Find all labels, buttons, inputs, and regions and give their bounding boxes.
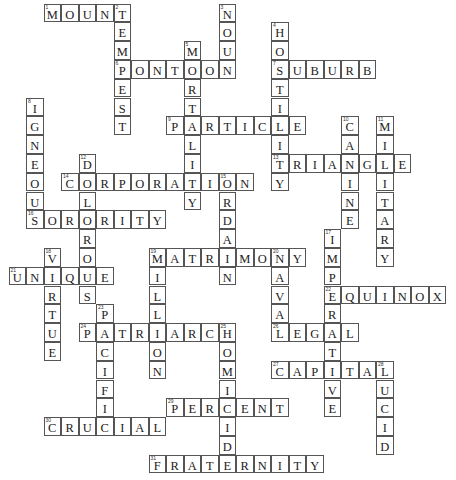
crossword-cell[interactable]: L xyxy=(271,116,289,135)
crossword-cell[interactable]: R xyxy=(201,248,219,267)
crossword-cell[interactable]: E xyxy=(394,154,412,173)
crossword-cell[interactable]: C xyxy=(96,342,114,361)
crossword-cell[interactable]: L xyxy=(149,286,167,305)
crossword-cell[interactable]: N xyxy=(26,267,44,286)
crossword-cell[interactable]: M xyxy=(219,361,237,380)
crossword-cell[interactable]: 17I xyxy=(324,229,342,248)
crossword-cell[interactable]: 15O xyxy=(219,173,237,192)
crossword-cell[interactable]: R xyxy=(149,173,167,192)
crossword-cell[interactable]: T xyxy=(166,60,184,79)
crossword-cell[interactable]: O xyxy=(61,4,79,23)
crossword-cell[interactable]: I xyxy=(271,98,289,117)
crossword-cell[interactable]: A xyxy=(289,361,307,380)
crossword-cell[interactable]: E xyxy=(114,22,132,41)
crossword-cell[interactable]: A xyxy=(184,455,202,474)
crossword-cell[interactable]: N xyxy=(26,135,44,154)
crossword-cell[interactable]: R xyxy=(44,286,62,305)
crossword-cell[interactable]: A xyxy=(219,229,237,248)
crossword-cell[interactable]: O xyxy=(131,173,149,192)
crossword-cell[interactable]: L xyxy=(376,154,394,173)
crossword-cell[interactable]: L xyxy=(341,323,359,342)
crossword-cell[interactable]: R xyxy=(131,323,149,342)
crossword-cell[interactable]: 10C xyxy=(341,116,359,135)
crossword-cell[interactable]: I xyxy=(219,417,237,436)
crossword-cell[interactable]: 30C xyxy=(44,417,62,436)
crossword-cell[interactable]: R xyxy=(184,79,202,98)
crossword-cell[interactable]: T xyxy=(44,304,62,323)
crossword-cell[interactable]: B xyxy=(306,60,324,79)
crossword-cell[interactable]: C xyxy=(96,417,114,436)
crossword-cell[interactable]: E xyxy=(289,323,307,342)
crossword-cell[interactable]: E xyxy=(219,455,237,474)
crossword-cell[interactable]: N xyxy=(341,154,359,173)
crossword-cell[interactable]: U xyxy=(79,267,97,286)
crossword-cell[interactable]: U xyxy=(26,192,44,211)
crossword-cell[interactable]: 4H xyxy=(271,22,289,41)
crossword-cell[interactable]: R xyxy=(236,455,254,474)
crossword-cell[interactable]: U xyxy=(324,60,342,79)
crossword-cell[interactable]: 7S xyxy=(271,60,289,79)
crossword-cell[interactable]: I xyxy=(271,135,289,154)
crossword-cell[interactable]: I xyxy=(236,116,254,135)
crossword-cell[interactable]: T xyxy=(271,79,289,98)
crossword-cell[interactable]: L xyxy=(184,135,202,154)
crossword-cell[interactable]: 25H xyxy=(219,323,237,342)
crossword-cell[interactable]: E xyxy=(96,267,114,286)
crossword-cell[interactable]: U xyxy=(219,41,237,60)
crossword-cell[interactable]: R xyxy=(166,455,184,474)
crossword-cell[interactable]: N xyxy=(219,267,237,286)
crossword-cell[interactable]: Y xyxy=(271,173,289,192)
crossword-cell[interactable]: X xyxy=(429,286,447,305)
crossword-cell[interactable]: E xyxy=(341,210,359,229)
crossword-cell[interactable]: U xyxy=(359,286,377,305)
crossword-cell[interactable]: E xyxy=(184,398,202,417)
crossword-cell[interactable]: 23P xyxy=(96,304,114,323)
crossword-cell[interactable]: C xyxy=(376,398,394,417)
crossword-cell[interactable]: I xyxy=(96,361,114,380)
crossword-cell[interactable]: A xyxy=(166,323,184,342)
crossword-cell[interactable]: I xyxy=(341,173,359,192)
crossword-cell[interactable]: R xyxy=(96,173,114,192)
crossword-cell[interactable]: T xyxy=(114,116,132,135)
crossword-cell[interactable]: N xyxy=(254,398,272,417)
crossword-cell[interactable]: M xyxy=(236,248,254,267)
crossword-cell[interactable]: I xyxy=(44,267,62,286)
crossword-cell[interactable]: 22E xyxy=(324,286,342,305)
crossword-cell[interactable]: 24P xyxy=(79,323,97,342)
crossword-cell[interactable]: 3N xyxy=(219,4,237,23)
crossword-cell[interactable]: S xyxy=(79,286,97,305)
crossword-cell[interactable]: O xyxy=(411,286,429,305)
crossword-cell[interactable]: 14C xyxy=(61,173,79,192)
crossword-cell[interactable]: R xyxy=(324,304,342,323)
crossword-cell[interactable]: A xyxy=(271,267,289,286)
crossword-cell[interactable]: N xyxy=(219,60,237,79)
crossword-cell[interactable]: O xyxy=(79,248,97,267)
crossword-cell[interactable]: N xyxy=(394,286,412,305)
crossword-cell[interactable]: T xyxy=(114,323,132,342)
crossword-cell[interactable]: 12D xyxy=(79,154,97,173)
crossword-cell[interactable]: G xyxy=(306,323,324,342)
crossword-cell[interactable]: A xyxy=(96,323,114,342)
crossword-cell[interactable]: L xyxy=(149,417,167,436)
crossword-cell[interactable]: I xyxy=(114,210,132,229)
crossword-cell[interactable]: O xyxy=(219,22,237,41)
crossword-cell[interactable]: O xyxy=(184,60,202,79)
crossword-cell[interactable]: I xyxy=(96,398,114,417)
crossword-cell[interactable]: T xyxy=(201,455,219,474)
crossword-cell[interactable]: Q xyxy=(341,286,359,305)
crossword-cell[interactable]: A xyxy=(324,323,342,342)
crossword-cell[interactable]: Y xyxy=(376,248,394,267)
crossword-cell[interactable]: V xyxy=(271,286,289,305)
crossword-cell[interactable]: T xyxy=(131,210,149,229)
crossword-cell[interactable]: B xyxy=(359,60,377,79)
crossword-cell[interactable]: E xyxy=(26,154,44,173)
crossword-cell[interactable]: N xyxy=(96,4,114,23)
crossword-cell[interactable]: T xyxy=(184,98,202,117)
crossword-cell[interactable]: A xyxy=(376,210,394,229)
crossword-cell[interactable]: I xyxy=(114,417,132,436)
crossword-cell[interactable]: P xyxy=(306,361,324,380)
crossword-cell[interactable]: 26L xyxy=(271,323,289,342)
crossword-cell[interactable]: P xyxy=(114,173,132,192)
crossword-cell[interactable]: N xyxy=(341,192,359,211)
crossword-cell[interactable]: R xyxy=(96,210,114,229)
